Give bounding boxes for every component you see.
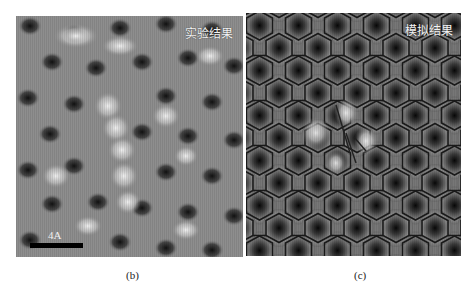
simulation-result-title: 模拟结果: [405, 21, 453, 39]
scale-bar-label: 4A: [48, 229, 61, 241]
experimental-result-title: 实验结果: [185, 24, 233, 42]
simulation-result-image: 模拟结果: [246, 13, 461, 256]
caption-b: (b): [126, 269, 139, 281]
caption-c: (c): [354, 269, 366, 281]
scale-bar: [30, 243, 83, 248]
experimental-image-graphic: [16, 16, 243, 257]
experimental-result-image: 实验结果 4A: [16, 16, 243, 257]
simulation-image-graphic: [246, 13, 461, 256]
